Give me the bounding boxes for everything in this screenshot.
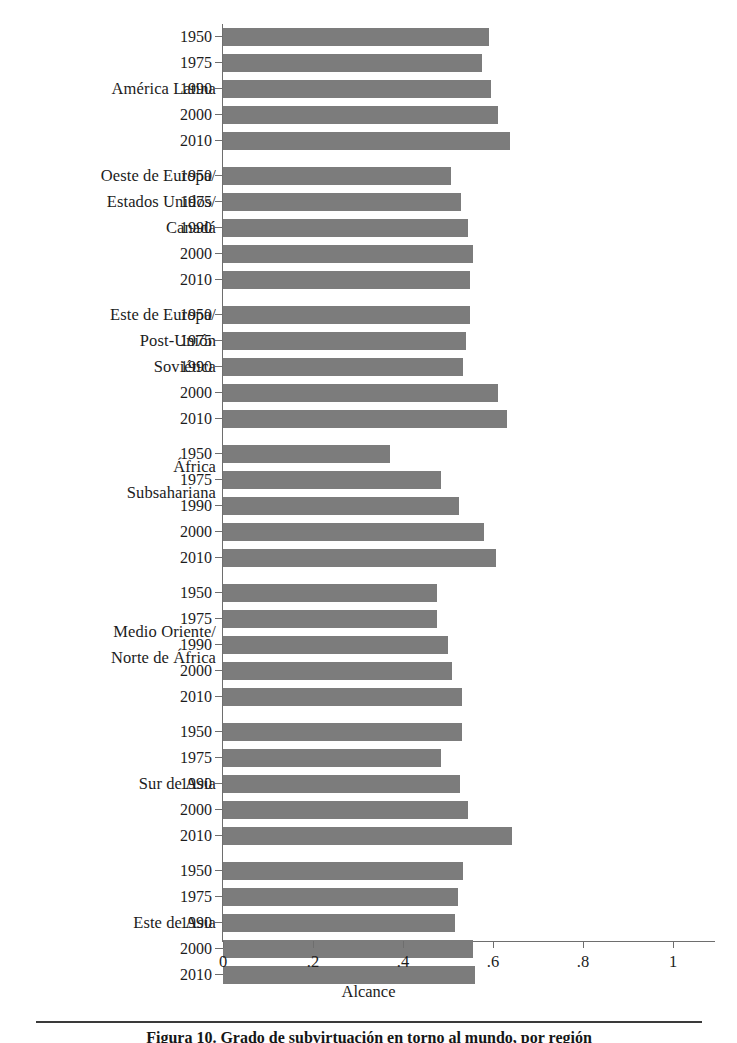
bar-row: 2000 <box>0 797 737 823</box>
bar <box>223 132 510 150</box>
y-tick-mark <box>215 531 223 532</box>
bar <box>223 410 507 428</box>
bar <box>223 445 390 463</box>
bar-row: 1975 <box>0 328 737 354</box>
bar-row: 2000 <box>0 102 737 128</box>
caption-rule <box>36 1021 702 1023</box>
bar-row: 1990 <box>0 76 737 102</box>
bar-row: 2010 <box>0 267 737 293</box>
bar-row: 1950 <box>0 580 737 606</box>
plot-area: América Latina19501975199020002010Oeste … <box>0 0 737 1043</box>
bar <box>223 497 459 515</box>
bar <box>223 662 452 680</box>
y-tick-mark <box>215 392 223 393</box>
bar <box>223 167 451 185</box>
bar <box>223 306 470 324</box>
bar <box>223 245 473 263</box>
y-tick-mark <box>215 114 223 115</box>
y-tick-mark <box>215 922 223 923</box>
y-tick-label: 1975 <box>120 189 212 215</box>
bar-group: Medio Oriente/Norte de África19501975199… <box>0 580 737 710</box>
y-tick-mark <box>215 644 223 645</box>
bar-row: 1990 <box>0 632 737 658</box>
y-tick-label: 2000 <box>120 102 212 128</box>
y-tick-mark <box>215 731 223 732</box>
bar-row: 1975 <box>0 189 737 215</box>
x-tick-mark <box>583 941 584 948</box>
bar <box>223 358 463 376</box>
bar <box>223 749 441 767</box>
bar-row: 1950 <box>0 163 737 189</box>
bar-row: 1990 <box>0 771 737 797</box>
y-tick-mark <box>215 783 223 784</box>
bar <box>223 80 491 98</box>
y-tick-label: 1990 <box>120 910 212 936</box>
bar-group: Este de Asia19501975199020002010 <box>0 858 737 988</box>
y-tick-label: 2010 <box>120 545 212 571</box>
y-tick-label: 1975 <box>120 606 212 632</box>
bar-row: 1950 <box>0 24 737 50</box>
bar-group: Este de Europa/Post-UniónSoviética195019… <box>0 302 737 432</box>
bar <box>223 862 463 880</box>
bar-row: 1990 <box>0 910 737 936</box>
y-tick-label: 1950 <box>120 302 212 328</box>
bar-row: 1975 <box>0 606 737 632</box>
y-tick-label: 1990 <box>120 354 212 380</box>
y-tick-label: 1950 <box>120 858 212 884</box>
y-tick-label: 2000 <box>120 658 212 684</box>
y-tick-label: 1975 <box>120 884 212 910</box>
bar-row: 2000 <box>0 658 737 684</box>
x-axis-title: Alcance <box>0 982 737 1002</box>
y-tick-mark <box>215 974 223 975</box>
bar-row: 1990 <box>0 354 737 380</box>
bar-group: ÁfricaSubsahariana19501975199020002010 <box>0 441 737 571</box>
bar-row: 1975 <box>0 467 737 493</box>
y-tick-mark <box>215 505 223 506</box>
y-tick-mark <box>215 253 223 254</box>
y-tick-label: 1990 <box>120 76 212 102</box>
y-tick-mark <box>215 835 223 836</box>
x-tick-label: .6 <box>463 952 523 972</box>
bar <box>223 271 470 289</box>
y-tick-mark <box>215 418 223 419</box>
y-tick-mark <box>215 314 223 315</box>
bar-row: 1975 <box>0 50 737 76</box>
bar <box>223 775 460 793</box>
bar <box>223 688 462 706</box>
y-tick-mark <box>215 279 223 280</box>
y-tick-label: 2010 <box>120 267 212 293</box>
x-tick-label: .4 <box>373 952 433 972</box>
y-tick-label: 1975 <box>120 328 212 354</box>
x-tick-mark <box>313 941 314 948</box>
bar-group: Oeste de Europa/Estados Unidos/Canadá195… <box>0 163 737 293</box>
y-tick-mark <box>215 88 223 89</box>
bar-row: 1950 <box>0 719 737 745</box>
y-tick-label: 2000 <box>120 519 212 545</box>
y-tick-label: 2010 <box>120 128 212 154</box>
x-tick-label: .8 <box>553 952 613 972</box>
y-tick-label: 2010 <box>120 823 212 849</box>
bar-row: 2010 <box>0 823 737 849</box>
figure-container: América Latina19501975199020002010Oeste … <box>0 0 737 1043</box>
bar-row: 1990 <box>0 215 737 241</box>
bar <box>223 219 468 237</box>
bar <box>223 723 462 741</box>
x-tick-label: 1 <box>643 952 703 972</box>
bar <box>223 888 458 906</box>
bar <box>223 193 461 211</box>
y-tick-mark <box>215 557 223 558</box>
y-tick-label: 1990 <box>120 493 212 519</box>
x-tick-mark <box>223 941 224 948</box>
bar <box>223 54 482 72</box>
bar-row: 2000 <box>0 380 737 406</box>
bar <box>223 584 437 602</box>
bar <box>223 384 498 402</box>
x-tick-label: .2 <box>283 952 343 972</box>
x-tick-mark <box>673 941 674 948</box>
figure-caption: Figura 10. Grado de subvirtuación en tor… <box>36 1029 702 1043</box>
y-tick-label: 2000 <box>120 380 212 406</box>
bar <box>223 636 448 654</box>
bar-row: 2010 <box>0 128 737 154</box>
y-tick-mark <box>215 896 223 897</box>
y-tick-label: 2000 <box>120 797 212 823</box>
